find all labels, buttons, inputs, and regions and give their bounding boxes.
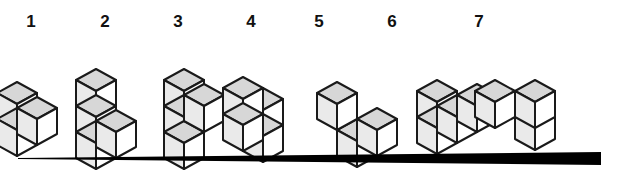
- shape-label-5: 5: [314, 12, 323, 31]
- shape-2: [76, 69, 136, 169]
- cube: [223, 103, 263, 151]
- shape-label-1: 1: [26, 12, 35, 31]
- shape-label-2: 2: [100, 12, 109, 31]
- shape-3: [164, 69, 224, 169]
- shape-label-7: 7: [474, 12, 483, 31]
- cube: [475, 80, 515, 128]
- cube: [17, 97, 57, 145]
- shape-label-4: 4: [246, 12, 256, 31]
- shape-7: [475, 80, 555, 150]
- shape-4: [223, 77, 283, 162]
- cube-assemblies-figure: 1234567: [0, 0, 630, 172]
- shape-1: [0, 82, 57, 156]
- shape-label-3: 3: [173, 12, 182, 31]
- cube: [184, 84, 224, 132]
- cube: [515, 80, 555, 128]
- cube: [357, 108, 397, 156]
- cube: [96, 110, 136, 158]
- shape-label-6: 6: [387, 12, 396, 31]
- shape-labels: 1234567: [26, 12, 483, 31]
- cube: [317, 82, 357, 130]
